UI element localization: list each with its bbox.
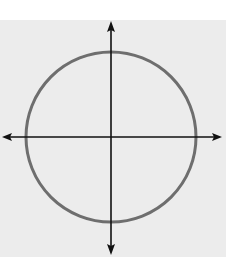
coordinate-figure [0, 0, 226, 257]
figure-canvas [0, 0, 226, 257]
